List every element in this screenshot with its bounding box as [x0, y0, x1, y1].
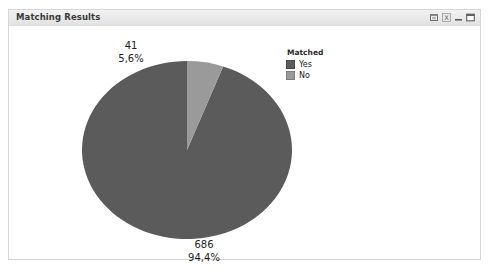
restore-icon[interactable]	[430, 13, 439, 22]
panel-title: Matching Results	[16, 12, 100, 22]
legend-item-yes[interactable]: Yes	[286, 59, 323, 69]
pie-chart	[9, 27, 480, 259]
panel-titlebar: Matching Results X	[9, 10, 480, 26]
maximize-icon[interactable]	[466, 13, 475, 22]
legend-item-no[interactable]: No	[286, 70, 323, 80]
minimize-icon[interactable]	[454, 13, 463, 22]
legend-label-no: No	[299, 71, 310, 80]
svg-text:X: X	[444, 14, 449, 22]
data-label-no: 41 5,6%	[101, 40, 161, 65]
chart-legend: Matched Yes No	[286, 48, 323, 81]
legend-title: Matched	[287, 48, 323, 57]
chart-plot-area: 41 5,6% 686 94,4% Matched Yes No	[9, 27, 480, 259]
data-label-no-value: 41	[101, 40, 161, 53]
data-label-yes-percent: 94,4%	[172, 252, 236, 265]
legend-swatch-no	[286, 71, 295, 80]
matching-results-panel: Matching Results X	[8, 9, 481, 260]
help-icon[interactable]: X	[442, 13, 451, 22]
data-label-yes: 686 94,4%	[172, 239, 236, 264]
data-label-no-percent: 5,6%	[101, 53, 161, 66]
legend-label-yes: Yes	[299, 60, 312, 69]
window-controls: X	[430, 13, 475, 22]
legend-swatch-yes	[286, 60, 295, 69]
data-label-yes-value: 686	[172, 239, 236, 252]
